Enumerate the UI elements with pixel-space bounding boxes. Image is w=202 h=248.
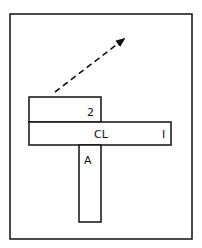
diagram-canvas: 2 CL I A bbox=[0, 0, 202, 248]
label-i: I bbox=[162, 128, 165, 141]
label-2: 2 bbox=[87, 106, 94, 119]
label-cl: CL bbox=[94, 128, 109, 141]
label-a: A bbox=[84, 154, 92, 167]
dashed-arrow bbox=[55, 39, 124, 92]
